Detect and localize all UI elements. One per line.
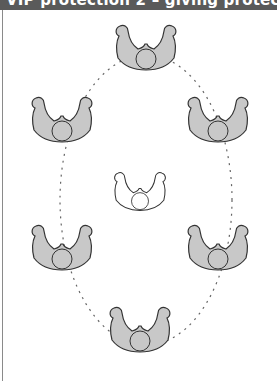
formation-diagram [0, 0, 277, 381]
vip-center [115, 173, 166, 211]
guard-bottom [110, 307, 170, 352]
guard-upper-left [32, 97, 92, 142]
guard-top [116, 25, 176, 70]
guard-upper-right [188, 97, 248, 142]
guard-lower-right [188, 225, 248, 270]
